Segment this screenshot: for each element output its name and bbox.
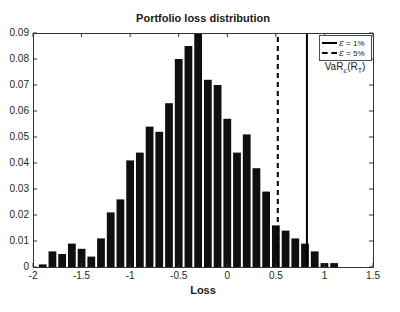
histogram-bar xyxy=(97,238,105,267)
histogram-bar xyxy=(107,212,115,267)
legend-entry-1pct: ε = 1% xyxy=(322,38,369,48)
var-arg-open: (R xyxy=(347,61,358,72)
legend-entry-5pct: ε = 5% xyxy=(322,48,369,58)
histogram-bar xyxy=(58,254,66,267)
x-tick-label: -1.5 xyxy=(65,270,99,281)
dashed-line-sample-icon xyxy=(322,52,337,54)
legend-label-1pct: ε = 1% xyxy=(339,38,365,48)
histogram-bar xyxy=(87,257,95,267)
histogram-bar xyxy=(243,134,251,267)
histogram-bar xyxy=(253,168,261,267)
var-arg-close: ) xyxy=(362,61,365,72)
histogram-bar xyxy=(126,160,134,267)
x-tick-label: 0 xyxy=(210,270,244,281)
histogram-bar xyxy=(282,231,290,267)
var-annotation: VaRε(RT) xyxy=(316,61,374,72)
legend-label-text: = 5% xyxy=(344,49,365,58)
histogram-bar xyxy=(262,192,270,267)
var-arg-subscript: T xyxy=(358,67,362,74)
var-epsilon-subscript: ε xyxy=(343,67,347,75)
y-tick-label: 0.04 xyxy=(0,157,29,169)
histogram-bar xyxy=(117,199,125,267)
histogram-bar xyxy=(204,80,212,267)
y-tick-label: 0.05 xyxy=(0,131,29,143)
portfolio-loss-figure: Portfolio loss distribution 00.010.020.0… xyxy=(0,0,400,312)
y-tick-label: 0.06 xyxy=(0,105,29,117)
x-tick-label: 0.5 xyxy=(259,270,293,281)
histogram-bar xyxy=(214,85,222,267)
y-tick-label: 0.07 xyxy=(0,79,29,91)
x-tick-label: -2 xyxy=(16,270,50,281)
legend-label-5pct: ε = 5% xyxy=(339,48,365,58)
y-tick-label: 0.02 xyxy=(0,209,29,221)
histogram-bar xyxy=(330,263,338,267)
histogram-bar xyxy=(185,46,193,267)
histogram-bar xyxy=(175,59,183,267)
x-tick-label: 1 xyxy=(307,270,341,281)
var-text: VaR xyxy=(325,61,344,72)
legend-label-text: = 1% xyxy=(344,39,365,48)
histogram-bar xyxy=(49,251,57,267)
histogram-bar xyxy=(223,119,231,267)
x-tick-label: -1 xyxy=(113,270,147,281)
histogram-bar xyxy=(68,244,76,267)
y-tick-label: 0.01 xyxy=(0,235,29,247)
histogram-bar xyxy=(155,132,163,267)
x-axis-label: Loss xyxy=(33,284,373,296)
solid-line-sample-icon xyxy=(322,42,337,44)
histogram-bar xyxy=(146,127,154,267)
histogram-bar xyxy=(165,103,173,267)
histogram-bar xyxy=(136,153,144,267)
histogram-bar xyxy=(291,238,299,267)
y-tick-label: 0.03 xyxy=(0,183,29,195)
x-tick-label: 1.5 xyxy=(356,270,390,281)
y-tick-label: 0.08 xyxy=(0,53,29,65)
x-tick-label: -0.5 xyxy=(162,270,196,281)
y-tick-label: 0.09 xyxy=(0,27,29,39)
histogram-bar xyxy=(194,33,202,267)
chart-title: Portfolio loss distribution xyxy=(33,12,373,24)
histogram-bar xyxy=(233,153,241,267)
histogram-bar xyxy=(311,251,319,267)
legend: ε = 1% ε = 5% xyxy=(319,35,372,61)
